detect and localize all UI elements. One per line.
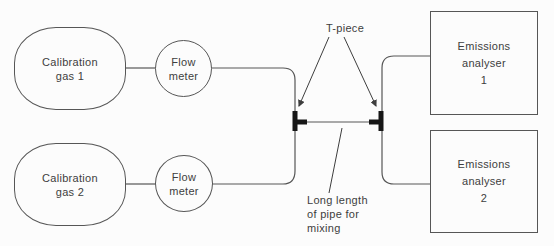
t-piece-junction-left (293, 111, 308, 131)
mixing-pipe-label: Long length of pipe for mixing (307, 193, 387, 235)
mixing-pipe-leader-line (329, 128, 342, 193)
node-flow-meter-2: Flow meter (155, 155, 213, 212)
node-label: Calibration gas 1 (42, 55, 98, 83)
pipe-flowmeters-to-left-junction (211, 68, 295, 184)
node-flow-meter-1: Flow meter (155, 40, 212, 97)
node-label: Flow meter (169, 55, 199, 83)
node-label: Emissions analyser 1 (458, 38, 511, 89)
node-calibration-gas-2: Calibration gas 2 (14, 143, 126, 226)
node-emissions-analyser-1: Emissions analyser 1 (430, 11, 538, 115)
node-emissions-analyser-2: Emissions analyser 2 (430, 130, 538, 233)
t-piece-arrow-right (344, 37, 376, 106)
node-label: Calibration gas 2 (42, 171, 98, 199)
t-piece-arrow-left (299, 37, 329, 106)
node-calibration-gas-1: Calibration gas 1 (14, 27, 126, 110)
node-label: Flow meter (169, 170, 199, 198)
pipe-right-junction-to-analysers (382, 56, 431, 184)
node-label: Emissions analyser 2 (458, 156, 511, 207)
t-piece-label: T-piece (313, 21, 377, 35)
t-piece-junction-right (369, 111, 384, 131)
diagram-canvas: Calibration gas 1 Flow meter Calibration… (0, 0, 554, 246)
